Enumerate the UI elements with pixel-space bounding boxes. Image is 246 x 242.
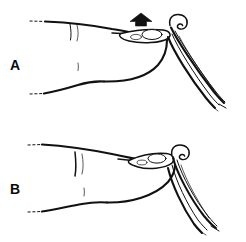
figure-canvas: A: [0, 0, 246, 242]
finger-volar-dashed-end-b: [28, 212, 42, 213]
figure-root: A: [0, 0, 246, 242]
fingernail-lunula: [142, 30, 162, 40]
finger-knuckle-crease-b1: [75, 152, 76, 176]
finger-volar-dashed-end: [30, 94, 44, 95]
fingernail-highlight-b: [137, 160, 147, 165]
panel-b-label: B: [10, 181, 20, 197]
panel-a-label: A: [10, 57, 20, 73]
fingernail-lunula-b: [148, 154, 166, 163]
fingernail-highlight: [131, 34, 142, 39]
finger-dorsal-dashed-end-b: [28, 145, 42, 146]
